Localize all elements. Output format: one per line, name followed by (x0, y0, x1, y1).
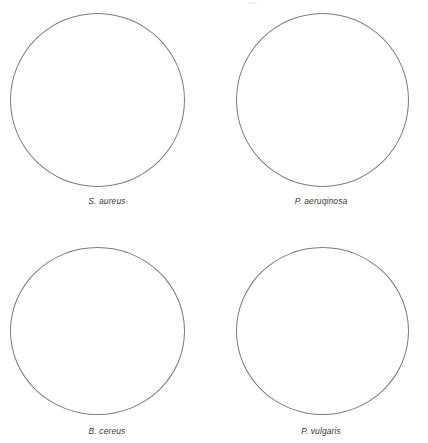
panel-p-aeruqinosa: P. aeruqinosa (214, 0, 428, 221)
plate-figure: S. aureus P. aeruqinosa B. cereus P. vul… (0, 0, 428, 443)
plate-label-p-vulgaris: P. vulgaris (214, 426, 428, 437)
panel-p-vulgaris: P. vulgaris (214, 222, 428, 443)
culture-plate-circle (236, 13, 409, 187)
culture-plate-circle (10, 247, 185, 415)
panel-s-aureus: S. aureus (0, 0, 214, 221)
culture-plate-circle (10, 13, 185, 187)
plate-label-s-aureus: S. aureus (0, 196, 214, 207)
plate-label-b-cereus: B. cereus (0, 426, 214, 437)
culture-plate-circle (236, 247, 409, 415)
panel-b-cereus: B. cereus (0, 222, 214, 443)
plate-label-p-aeruqinosa: P. aeruqinosa (214, 196, 428, 207)
